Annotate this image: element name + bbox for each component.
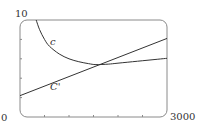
average-cost-curve bbox=[36, 20, 167, 65]
x-max-label: 3000 bbox=[170, 111, 195, 122]
y-max-label: 10 bbox=[15, 8, 28, 19]
chart: 10 0 3000 c C' bbox=[0, 0, 204, 135]
curve-label-c: c bbox=[50, 36, 56, 47]
curve-label-c-prime: C' bbox=[50, 81, 60, 92]
x-min-label: 0 bbox=[1, 112, 7, 123]
marginal-cost-line bbox=[20, 38, 167, 95]
